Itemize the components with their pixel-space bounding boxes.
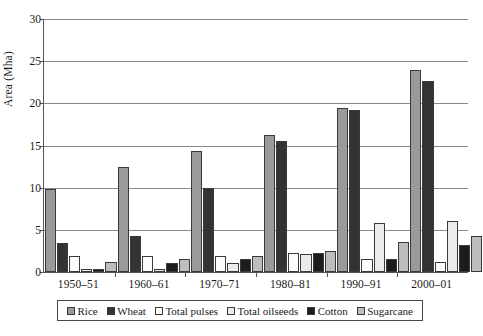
- legend-swatch-icon: [357, 307, 365, 315]
- bar: [422, 81, 433, 272]
- legend-item[interactable]: Total pulses: [155, 305, 218, 317]
- bar: [215, 256, 226, 272]
- bar: [57, 243, 68, 272]
- bar: [459, 245, 470, 272]
- plot-area: 051015202530: [43, 19, 468, 273]
- bar: [386, 259, 397, 272]
- bar: [130, 236, 141, 272]
- bar: [166, 263, 177, 272]
- bar: [227, 263, 238, 272]
- bar: [337, 108, 348, 272]
- bar-groups: [44, 19, 468, 272]
- y-tick-label: 10: [7, 183, 41, 195]
- bar: [154, 269, 165, 272]
- bar: [240, 259, 251, 272]
- bar: [81, 269, 92, 272]
- bar: [118, 167, 129, 272]
- bar-group: [190, 19, 263, 272]
- bar: [398, 242, 409, 272]
- bar: [313, 253, 324, 272]
- bar-group: [337, 19, 410, 272]
- legend-item[interactable]: Total oilseeds: [227, 305, 298, 317]
- legend-label: Cotton: [318, 305, 348, 317]
- x-axis-label: 1950–51: [43, 276, 114, 294]
- legend-label: Total pulses: [165, 305, 218, 317]
- bar-group: [263, 19, 336, 272]
- bar: [45, 189, 56, 272]
- bar: [288, 253, 299, 272]
- x-axis-label: 2000–01: [396, 276, 467, 294]
- legend-swatch-icon: [227, 307, 235, 315]
- chart-legend: RiceWheatTotal pulsesTotal oilseedsCotto…: [57, 300, 423, 321]
- y-tick-label: 5: [7, 225, 41, 237]
- bar: [435, 262, 446, 272]
- y-tick-label: 20: [7, 98, 41, 110]
- bar: [361, 259, 372, 272]
- legend-label: Sugarcane: [367, 305, 413, 317]
- bar: [252, 256, 263, 272]
- bar: [325, 251, 336, 272]
- bar: [300, 254, 311, 272]
- bar: [276, 141, 287, 272]
- bar: [410, 70, 421, 272]
- legend-label: Wheat: [117, 305, 146, 317]
- y-tick-label: 30: [7, 14, 41, 26]
- bar-group: [410, 19, 483, 272]
- y-tick-label: 25: [7, 56, 41, 68]
- bar: [191, 151, 202, 272]
- legend-label: Rice: [78, 305, 98, 317]
- x-axis-label: 1970–71: [184, 276, 255, 294]
- x-axis-labels: 1950–511960–611970–711980–811990–912000–…: [43, 276, 467, 294]
- bar: [349, 110, 360, 272]
- bar: [471, 236, 482, 272]
- legend-label: Total oilseeds: [238, 305, 299, 317]
- y-tick-label: 15: [7, 141, 41, 153]
- bar: [264, 135, 275, 272]
- bar: [93, 269, 104, 272]
- legend-swatch-icon: [307, 307, 315, 315]
- bar: [179, 259, 190, 272]
- bar: [447, 221, 458, 272]
- legend-swatch-icon: [67, 307, 75, 315]
- legend-swatch-icon: [155, 307, 163, 315]
- legend-item[interactable]: Sugarcane: [357, 305, 413, 317]
- bar: [374, 223, 385, 272]
- legend-item[interactable]: Wheat: [107, 305, 146, 317]
- x-axis-label: 1980–81: [255, 276, 326, 294]
- legend-item[interactable]: Rice: [67, 305, 98, 317]
- bar-group: [44, 19, 117, 272]
- x-axis-label: 1960–61: [114, 276, 185, 294]
- legend-item[interactable]: Cotton: [307, 305, 347, 317]
- legend-swatch-icon: [107, 307, 115, 315]
- bar: [69, 256, 80, 272]
- bar-group: [117, 19, 190, 272]
- x-axis-label: 1990–91: [326, 276, 397, 294]
- bar: [142, 256, 153, 272]
- bar: [105, 262, 116, 272]
- bar: [203, 188, 214, 272]
- y-tick-label: 0: [7, 267, 41, 279]
